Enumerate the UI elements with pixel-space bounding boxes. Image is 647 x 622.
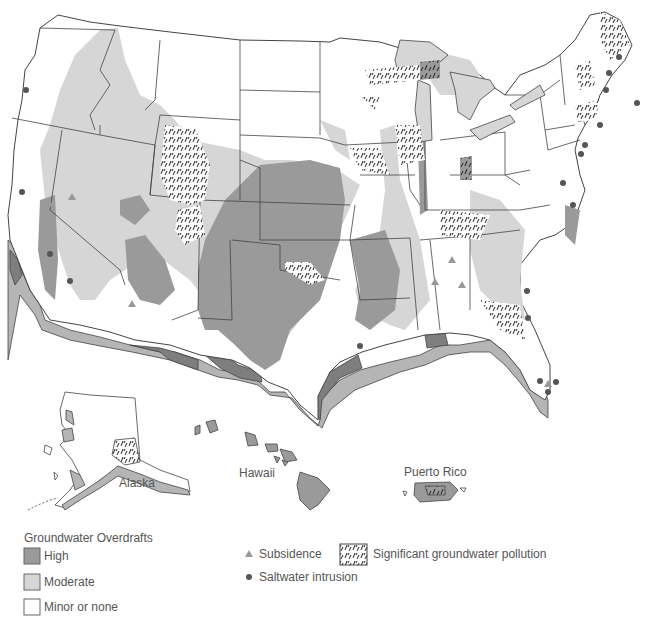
puerto-rico xyxy=(403,482,466,502)
pollution-zone-indiana xyxy=(460,156,472,180)
triangle-icon xyxy=(245,550,253,557)
hawaii xyxy=(195,420,330,510)
label-puerto-rico: Puerto Rico xyxy=(404,465,467,479)
legend-label-high: High xyxy=(44,549,69,563)
legend-swatch-moderate xyxy=(24,574,40,590)
legend-label-minor: Minor or none xyxy=(44,600,118,614)
label-hawaii: Hawaii xyxy=(239,466,275,480)
legend-label-moderate: Moderate xyxy=(44,575,95,589)
dot-icon xyxy=(246,574,252,580)
legend-title-overdrafts: Groundwater Overdrafts xyxy=(24,531,153,545)
legend-label-subsidence: Subsidence xyxy=(259,547,322,561)
pollution-zone-lake-superior xyxy=(420,60,440,80)
legend-label-saltwater: Saltwater intrusion xyxy=(259,570,358,584)
legend-swatch-minor xyxy=(24,599,40,615)
legend-swatch-high xyxy=(24,548,40,564)
groundwater-map xyxy=(0,0,647,622)
label-alaska: Alaska xyxy=(119,476,155,490)
alaska xyxy=(28,392,190,510)
hatch-pattern-icon xyxy=(340,544,367,565)
legend-label-pollution: Significant groundwater pollution xyxy=(373,547,546,561)
